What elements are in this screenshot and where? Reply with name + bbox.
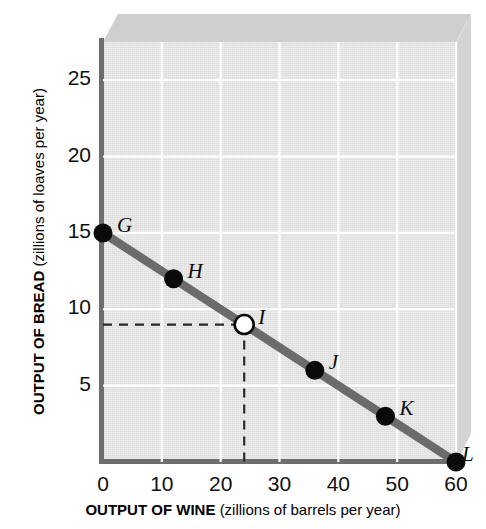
y-tick-label: 25 [45, 66, 91, 90]
x-axis-title-rest: (zillions of barrels per year) [220, 501, 401, 518]
y-axis-title-rest: (zillions of loaves per year) [30, 88, 47, 266]
x-axis-title: OUTPUT OF WINE (zillions of barrels per … [0, 501, 486, 518]
point-label-k: K [399, 396, 413, 421]
origin-tick-label: 0 [80, 472, 126, 496]
y-axis-title: OUTPUT OF BREAD (zillions of loaves per … [30, 32, 47, 472]
x-tick-label: 50 [374, 472, 420, 496]
x-tick-label: 10 [139, 472, 185, 496]
x-axis-title-bold: OUTPUT OF WINE [85, 501, 215, 518]
x-tick-label: 20 [198, 472, 244, 496]
y-tick-label: 15 [45, 219, 91, 243]
point-label-j: J [329, 350, 338, 375]
point-label-i: I [258, 305, 265, 330]
point-label-g: G [117, 213, 132, 238]
y-tick-label: 10 [45, 295, 91, 319]
point-label-l: L [462, 442, 474, 467]
x-tick-label: 30 [257, 472, 303, 496]
y-tick-label: 20 [45, 143, 91, 167]
x-tick-label: 60 [433, 472, 479, 496]
y-axis-title-bold: OUTPUT OF BREAD [30, 271, 47, 415]
point-label-h: H [188, 259, 203, 284]
ppf-chart-figure: 510152025 0102030405060 GHIJKL OUTPUT OF… [0, 0, 486, 529]
y-tick-label: 5 [45, 372, 91, 396]
x-tick-label: 40 [315, 472, 361, 496]
guide-dashed-lines [103, 325, 244, 462]
